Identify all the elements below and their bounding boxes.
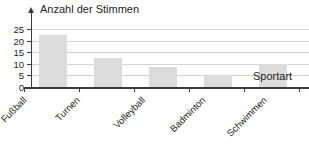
y-tick-mark-20 xyxy=(27,41,32,42)
x-category-label-fussball: Fußball xyxy=(0,95,29,124)
y-tick-label-20: 20 xyxy=(0,37,24,47)
y-tick-label-0: 0 xyxy=(0,83,24,93)
gridline-15 xyxy=(31,52,309,53)
x-axis-line xyxy=(24,87,309,89)
y-tick-label-5: 5 xyxy=(0,71,24,81)
x-tick-mark-2 xyxy=(134,87,135,92)
gridline-20 xyxy=(31,41,309,42)
bar-volleyball xyxy=(149,67,177,87)
gridline-25 xyxy=(31,29,309,30)
x-axis-title: Sportart xyxy=(253,70,292,82)
x-tick-mark-3 xyxy=(189,87,190,92)
bar-fussball xyxy=(39,35,67,87)
y-tick-label-25: 25 xyxy=(0,25,24,35)
y-tick-mark-10 xyxy=(27,64,32,65)
bar-chart: 0 5 10 15 20 25 Anzahl der Stimmen Sport… xyxy=(0,0,309,153)
x-tick-mark-5 xyxy=(299,87,300,92)
y-tick-mark-15 xyxy=(27,52,32,53)
y-tick-mark-25 xyxy=(27,29,32,30)
x-category-label-schwimmen: Schwimmen xyxy=(225,95,269,139)
x-category-label-volleyball: Volleyball xyxy=(112,95,147,130)
x-tick-mark-1 xyxy=(79,87,80,92)
x-category-label-turnen: Turnen xyxy=(54,95,82,123)
y-tick-mark-0 xyxy=(27,87,32,88)
y-axis-title: Anzahl der Stimmen xyxy=(40,3,139,15)
y-tick-label-10: 10 xyxy=(0,60,24,70)
x-tick-mark-4 xyxy=(244,87,245,92)
x-tick-mark-0 xyxy=(24,87,25,92)
x-category-label-badminton: Badminton xyxy=(168,95,207,134)
bar-badminton xyxy=(204,75,232,87)
bar-turnen xyxy=(94,58,122,87)
y-tick-mark-5 xyxy=(27,75,32,76)
y-axis-arrow-icon xyxy=(28,7,34,13)
y-tick-label-15: 15 xyxy=(0,48,24,58)
